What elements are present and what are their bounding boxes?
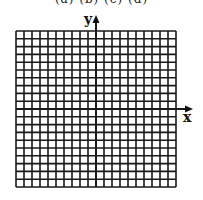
y-axis-arrow-icon <box>93 15 100 23</box>
coordinate-grid <box>0 0 203 200</box>
x-axis-label: x <box>183 110 191 124</box>
y-axis-label: y <box>84 12 92 26</box>
